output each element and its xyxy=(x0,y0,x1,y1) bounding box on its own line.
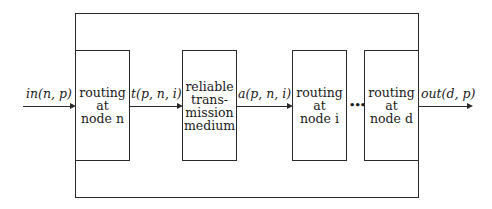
node-routing-i: routing at node i xyxy=(292,50,347,161)
node-line: medium xyxy=(184,119,235,132)
node-routing-n: routing at node n xyxy=(75,50,130,161)
output-arrow xyxy=(419,106,470,107)
node-line: reliable xyxy=(185,80,233,93)
edge-a-label: a(p, n, i) xyxy=(238,86,291,101)
node-line: node d xyxy=(370,112,413,125)
input-arrow xyxy=(23,106,73,107)
node-line: trans- xyxy=(191,93,228,106)
node-routing-d: routing at node d xyxy=(364,50,419,161)
edge-t-arrow xyxy=(130,106,179,107)
node-transmission-medium: reliable trans- mission medium xyxy=(182,50,237,161)
ellipsis-dots: ••• xyxy=(349,99,365,110)
output-label: out(d, p) xyxy=(421,86,475,101)
edge-t-label: t(p, n, i) xyxy=(131,86,182,101)
edge-a-arrow xyxy=(237,106,289,107)
output-arrowhead xyxy=(467,103,473,109)
node-line: mission xyxy=(185,106,233,119)
input-label: in(n, p) xyxy=(26,86,72,101)
node-line: node n xyxy=(81,112,124,125)
node-line: node i xyxy=(300,112,339,125)
